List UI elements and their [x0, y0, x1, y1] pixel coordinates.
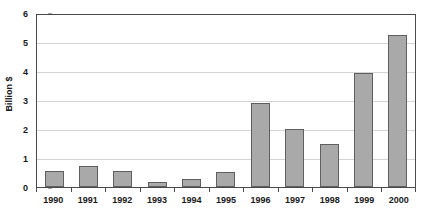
x-axis-tick-mark — [243, 188, 244, 192]
x-axis-tick-mark — [209, 188, 210, 192]
bar — [148, 182, 167, 187]
x-axis-tick-mark — [174, 188, 175, 192]
x-axis-tick-label: 1990 — [36, 193, 71, 207]
x-axis-tick-mark — [312, 188, 313, 192]
bar — [45, 171, 64, 187]
y-axis-tick-labels: 0123456 — [16, 14, 32, 188]
bar-slot — [106, 15, 140, 187]
x-axis-tick-mark — [381, 188, 382, 192]
bar-slot — [312, 15, 346, 187]
y-axis-tick-label: 2 — [23, 126, 28, 135]
x-axis-tick-label: 1998 — [312, 193, 347, 207]
bar-slot — [278, 15, 312, 187]
x-axis-tick-label: 1994 — [174, 193, 209, 207]
y-axis-title: Billion $ — [0, 0, 16, 188]
x-axis-tick-mark — [278, 188, 279, 192]
bar — [354, 73, 373, 187]
x-axis-tick-label: 1996 — [243, 193, 278, 207]
bar-slot — [346, 15, 380, 187]
y-axis-tick-label: 0 — [23, 184, 28, 193]
x-axis-tick-mark — [105, 188, 106, 192]
x-axis-tick-label: 1999 — [347, 193, 382, 207]
bar-slot — [37, 15, 71, 187]
x-axis-tick-label: 1992 — [105, 193, 140, 207]
x-axis-tick-label: 1997 — [278, 193, 313, 207]
bar-chart: Billion $ 0123456 1990199119921993199419… — [0, 0, 421, 220]
bars-layer — [37, 15, 415, 187]
x-axis-tick-mark — [140, 188, 141, 192]
bar-slot — [243, 15, 277, 187]
x-axis-tick-mark — [415, 188, 416, 192]
bar-slot — [381, 15, 415, 187]
y-axis-tick-label: 5 — [23, 39, 28, 48]
bar — [320, 144, 339, 188]
bar — [216, 172, 235, 187]
bar-slot — [140, 15, 174, 187]
y-axis-title-label: Billion $ — [3, 76, 13, 111]
x-axis-tick-marks — [36, 188, 416, 192]
x-axis-tick-label: 1991 — [71, 193, 106, 207]
bar-slot — [209, 15, 243, 187]
bar — [251, 103, 270, 187]
bar-slot — [71, 15, 105, 187]
x-axis-tick-mark — [71, 188, 72, 192]
bar — [285, 129, 304, 187]
y-axis-tick-label: 4 — [23, 68, 28, 77]
y-axis-tick-label: 3 — [23, 97, 28, 106]
x-axis-tick-mark — [36, 188, 37, 192]
y-axis-tick-label: 6 — [23, 10, 28, 19]
bar-slot — [174, 15, 208, 187]
bar — [113, 171, 132, 187]
plot-area — [36, 14, 416, 188]
bar — [79, 166, 98, 187]
x-axis-tick-label: 1995 — [209, 193, 244, 207]
y-axis-tick-label: 1 — [23, 155, 28, 164]
x-axis-tick-label: 1993 — [140, 193, 175, 207]
bar — [388, 35, 407, 187]
x-axis-tick-mark — [347, 188, 348, 192]
x-axis-tick-labels: 1990199119921993199419951996199719981999… — [36, 193, 416, 207]
bar — [182, 179, 201, 187]
x-axis-tick-label: 2000 — [381, 193, 416, 207]
